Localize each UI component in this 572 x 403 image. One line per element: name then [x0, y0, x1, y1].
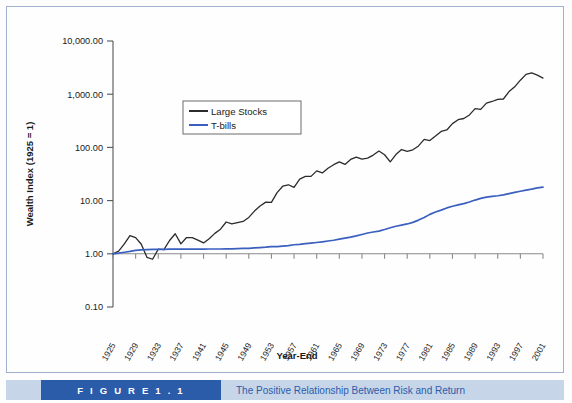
chart-frame: 10,000.001,000.00100.0010.001.000.10 Wea… [6, 6, 564, 373]
x-tick-label: 1953 [258, 341, 276, 363]
x-tick-label: 2001 [530, 341, 548, 363]
series-line-large-stocks [113, 73, 543, 259]
x-tick-label: 1981 [416, 341, 434, 363]
x-tick-label: 1965 [326, 341, 344, 363]
wealth-index-line-chart: 10,000.001,000.00100.0010.001.000.10 Wea… [7, 7, 565, 374]
figure-page: 10,000.001,000.00100.0010.001.000.10 Wea… [0, 0, 572, 403]
figure-caption-text: The Positive Relationship Between Risk a… [236, 380, 465, 400]
y-tick-label: 0.10 [85, 302, 103, 312]
baseline-axis [113, 254, 543, 259]
x-tick-label: 1949 [235, 341, 253, 363]
x-axis-ticks: 1925192919331937194119451949195319571961… [100, 341, 548, 363]
y-tick-label: 1,000.00 [67, 90, 103, 100]
x-tick-label: 1937 [167, 341, 185, 363]
y-tick-label: 10,000.00 [62, 36, 103, 46]
x-tick-label: 1969 [348, 341, 366, 363]
x-tick-label: 1977 [394, 341, 412, 363]
x-tick-label: 1985 [439, 341, 457, 363]
x-tick-label: 1945 [213, 341, 231, 363]
figure-caption-bar: F I G U R E 1 . 1 The Positive Relations… [6, 380, 564, 400]
x-tick-label: 1993 [484, 341, 502, 363]
x-tick-label: 1925 [100, 341, 118, 363]
x-axis-title: Year-End [276, 350, 317, 361]
x-tick-label: 1933 [145, 341, 163, 363]
x-tick-label: 1989 [462, 341, 480, 363]
legend-label-t-bills: T-bills [211, 120, 236, 131]
data-series-group [113, 73, 543, 259]
y-tick-label: 100.00 [75, 143, 103, 153]
x-tick-label: 1973 [371, 341, 389, 363]
y-axis-title: Wealth Index (1925 = 1) [24, 122, 35, 227]
x-tick-label: 1997 [507, 341, 525, 363]
y-tick-label: 10.00 [80, 196, 103, 206]
y-axis-ticks: 10,000.001,000.00100.0010.001.000.10 [62, 36, 113, 312]
series-line-t-bills [113, 187, 543, 254]
figure-number-label: F I G U R E 1 . 1 [41, 380, 221, 400]
legend-label-large-stocks: Large Stocks [211, 106, 267, 117]
plot-area: 10,000.001,000.00100.0010.001.000.10 Wea… [7, 7, 563, 372]
y-tick-label: 1.00 [85, 249, 103, 259]
x-tick-label: 1929 [122, 341, 140, 363]
x-tick-label: 1941 [190, 341, 208, 363]
chart-legend: Large StocksT-bills [183, 101, 301, 134]
